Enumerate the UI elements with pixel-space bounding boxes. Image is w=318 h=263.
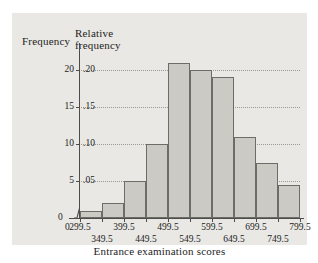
y-axis-zero-label: 0 [58, 212, 63, 222]
right-axis-title: Relative frequency [75, 28, 121, 51]
right-axis-title-line2: frequency [75, 40, 121, 52]
right-axis-title-line1: Relative [75, 28, 121, 40]
x-tickmark [146, 218, 147, 222]
bars-group [80, 57, 300, 218]
x-tickmark [234, 218, 235, 222]
histogram-bar [278, 185, 300, 218]
x-axis-tick-label: 649.5 [217, 234, 251, 244]
x-axis-tick-label: 699.5 [239, 222, 273, 232]
x-axis-tick-label: 399.5 [107, 222, 141, 232]
x-axis-tick-label: 799.5 [283, 222, 317, 232]
left-axis-title: Frequency [22, 35, 70, 47]
x-axis-tick-label: 749.5 [261, 234, 295, 244]
figure-panel: Frequency Relative frequency 5101520 .05… [12, 13, 307, 245]
x-axis-title: Entrance examination scores [12, 245, 307, 257]
x-axis-tick-label: 299.5 [63, 222, 97, 232]
x-tickmark [102, 218, 103, 222]
x-tickmark [278, 218, 279, 222]
histogram-bar [102, 203, 124, 218]
histogram-bar [256, 163, 278, 219]
y-axis-left-tick-label: 20 [50, 64, 74, 74]
plot-area [80, 57, 300, 219]
y-axis-left-tick-label: 5 [50, 175, 74, 185]
y-axis-left-tick-label: 10 [50, 138, 74, 148]
histogram-bar [168, 63, 190, 218]
histogram-bar [190, 70, 212, 218]
histogram-bar [146, 144, 168, 218]
x-tickmark [190, 218, 191, 222]
histogram-bar [124, 181, 146, 218]
x-axis-tick-label: 449.5 [129, 234, 163, 244]
x-axis-tick-label: 549.5 [173, 234, 207, 244]
y-axis-left-tick-label: 15 [50, 101, 74, 111]
x-axis-tick-label: 349.5 [85, 234, 119, 244]
histogram-bar [212, 77, 234, 218]
histogram-bar [234, 137, 256, 218]
x-axis-tick-label: 599.5 [195, 222, 229, 232]
histogram-bar [80, 211, 102, 218]
x-axis-tick-label: 499.5 [151, 222, 185, 232]
